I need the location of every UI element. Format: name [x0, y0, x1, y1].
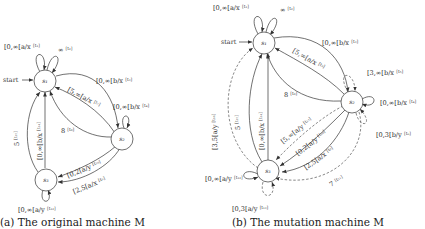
node-b-s3-label: s₃ [265, 167, 271, 174]
edge-a-t4 [123, 116, 129, 128]
label-b-t5: [3,∞[b/x [t₅] [367, 69, 403, 77]
label-b-t2: ∞ [t₂] [280, 6, 295, 14]
label-a-t1: [0,∞[a/x [t₁] [4, 43, 40, 51]
label-b-t11: 7 [t₁₁] [328, 174, 345, 189]
label-a-t9: [2,5[a/x [t₉] [72, 175, 107, 195]
label-a-t2: ∞ [t₂] [58, 46, 73, 54]
edge-b-t13 [262, 182, 273, 196]
figure-b: start s₁ s₂ s₃ [0,∞[a/x [t [205, 4, 416, 228]
edge-b-t1 [254, 16, 262, 34]
node-a-s2-label: s₂ [119, 135, 125, 142]
figure-a: start s₁ s₂ s₃ [0,∞[a/x [t₁] ∞ [t₂] [0,∞… [0, 43, 149, 228]
edge-b-t4 [362, 97, 374, 106]
label-b-t14: [0,∞[b/x [t₁₄] [258, 112, 266, 150]
node-a-s3-label: s₃ [43, 176, 49, 183]
edge-b-t11 [275, 112, 361, 180]
edge-a-t12 [42, 190, 49, 201]
node-b-s2-label: s₂ [349, 98, 355, 105]
label-b-t6: [0,3[b/y [t₆] [376, 131, 411, 139]
label-a-t3: [0,∞[b/x [t₃] [96, 77, 132, 85]
label-b-t7: [5,∞[a/x [t₇] [291, 47, 326, 72]
caption-a: (a) The original machine M [0, 216, 145, 228]
diagram-canvas: start s₁ s₂ s₃ [0,∞[a/x [t₁] ∞ [t₂] [0,∞… [0, 0, 425, 229]
label-a-t12: [0,∞[a/y [t₁₂] [18, 206, 56, 214]
label-b-t1: [0,∞[a/x [t₁] [213, 4, 249, 12]
edge-b-t12 [244, 172, 258, 179]
label-a-t4: [0,∞[b/x [t₄] [113, 103, 149, 111]
start-label-b: start [221, 38, 237, 46]
label-a-t15: 5 [t₁₅] [13, 131, 21, 146]
node-b-s1-label: s₁ [261, 39, 266, 46]
label-b-t12: [0,∞[a/y [t₁₂] [205, 175, 243, 183]
edge-b-t16 [228, 48, 258, 168]
label-b-t8: 8 [t₈] [284, 91, 298, 99]
label-b-t3: [0,∞[b/x [t₃] [322, 39, 358, 47]
label-b-t4: [0,∞[b/x [t₄] [380, 99, 416, 107]
label-a-t7: [5,∞[a/x [t₇] [66, 86, 102, 110]
label-a-t8: 8 [t₈] [61, 127, 75, 135]
label-b-t15: 5 [t₁₅] [234, 115, 242, 130]
label-b-t16: [3,5[a/y [t₁₆] [211, 113, 219, 150]
start-label-a: start [3, 76, 19, 84]
label-a-t14: [0,∞[b/x [t₁₄] [36, 122, 44, 160]
caption-b: (b) The mutation machine M [232, 216, 384, 228]
node-a-s1-label: s₁ [42, 77, 47, 84]
edge-a-t1 [36, 54, 44, 72]
label-b-t13: [0,3[a/y [t₁₃] [232, 205, 269, 213]
